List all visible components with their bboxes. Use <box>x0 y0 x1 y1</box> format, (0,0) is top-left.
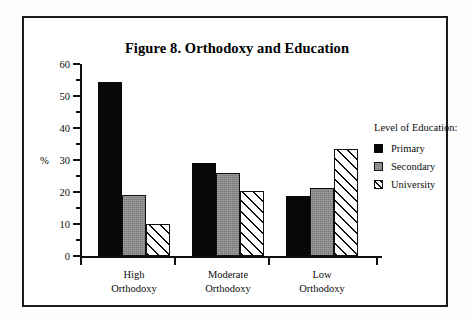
x-axis-tick <box>174 258 176 265</box>
x-axis-group-label-line1: High <box>84 268 184 282</box>
x-axis-group-label: HighOrthodoxy <box>84 268 184 295</box>
y-tick-major <box>73 255 80 257</box>
bar-primary <box>286 196 310 256</box>
legend-item-label: University <box>391 179 435 190</box>
y-axis-line <box>80 64 82 258</box>
y-tick-label: 60 <box>46 59 70 70</box>
plot-area: % 0102030405060 HighOrthodoxyModerateOrt… <box>80 64 380 258</box>
x-axis-tick-end <box>376 258 378 265</box>
legend-item: Primary <box>374 143 474 154</box>
figure-root: Figure 8. Orthodoxy and Education % 0102… <box>0 0 475 323</box>
page-title: Figure 8. Orthodoxy and Education <box>24 40 450 57</box>
bar-secondary <box>310 188 334 256</box>
legend-item-label: Secondary <box>391 161 435 172</box>
y-tick-minor <box>76 111 80 112</box>
x-axis-group-label-line1: Low <box>272 268 372 282</box>
bar-primary <box>192 163 216 256</box>
x-axis-group-label: LowOrthodoxy <box>272 268 372 295</box>
y-tick-major <box>73 95 80 97</box>
y-tick-minor <box>76 143 80 144</box>
y-tick-major <box>73 127 80 129</box>
bar-primary <box>98 82 122 256</box>
y-tick-minor <box>76 239 80 240</box>
bar-group <box>98 64 170 256</box>
bar-university <box>334 149 358 256</box>
legend-item: University <box>374 179 474 190</box>
legend-title: Level of Education: <box>374 122 474 133</box>
y-tick-label: 50 <box>46 91 70 102</box>
bar-group <box>192 64 264 256</box>
bar-secondary <box>122 195 146 256</box>
legend-items: PrimarySecondaryUniversity <box>374 143 474 190</box>
solid-black-swatch-icon <box>374 144 383 153</box>
y-tick-major <box>73 191 80 193</box>
figure-frame: Figure 8. Orthodoxy and Education % 0102… <box>22 16 448 307</box>
y-tick-minor <box>76 207 80 208</box>
y-tick-major <box>73 63 80 65</box>
y-tick-label: 10 <box>46 219 70 230</box>
x-axis-tick <box>80 258 82 265</box>
y-tick-label: 0 <box>46 251 70 262</box>
bar-secondary <box>216 173 240 256</box>
y-tick-label: 30 <box>46 155 70 166</box>
diagonal-hatch-swatch-icon <box>374 180 383 189</box>
x-axis-group-label-line2: Orthodoxy <box>84 282 184 296</box>
solid-gray-swatch-icon <box>374 162 383 171</box>
y-tick-major <box>73 159 80 161</box>
y-tick-label: 40 <box>46 123 70 134</box>
x-axis-group-label-line2: Orthodoxy <box>178 282 278 296</box>
y-tick-major <box>73 223 80 225</box>
legend: Level of Education: PrimarySecondaryUniv… <box>374 122 474 197</box>
legend-item-label: Primary <box>391 143 425 154</box>
x-axis-group-label: ModerateOrthodoxy <box>178 268 278 295</box>
y-tick-label: 20 <box>46 187 70 198</box>
legend-item: Secondary <box>374 161 474 172</box>
x-axis-group-label-line2: Orthodoxy <box>272 282 372 296</box>
y-tick-minor <box>76 175 80 176</box>
x-axis-tick <box>268 258 270 265</box>
bar-university <box>146 224 170 256</box>
bar-group <box>286 64 358 256</box>
x-axis-line <box>80 256 382 258</box>
y-tick-minor <box>76 79 80 80</box>
bar-university <box>240 191 264 256</box>
x-axis-group-label-line1: Moderate <box>178 268 278 282</box>
